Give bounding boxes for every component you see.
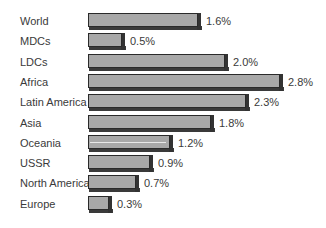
chart-row: Latin America2.3% bbox=[0, 93, 326, 113]
bar bbox=[88, 74, 280, 88]
category-label: World bbox=[20, 15, 49, 27]
chart-row: Oceania1.2% bbox=[0, 134, 326, 154]
chart-row: LDCs2.0% bbox=[0, 53, 326, 73]
bar bbox=[88, 155, 150, 169]
chart-row: World1.6% bbox=[0, 12, 326, 32]
bar bbox=[88, 13, 198, 27]
bar bbox=[88, 175, 136, 189]
category-label: Africa bbox=[20, 76, 48, 88]
chart-row: Europe0.3% bbox=[0, 195, 326, 215]
value-label: 0.3% bbox=[117, 198, 142, 210]
category-label: North America bbox=[20, 177, 90, 189]
value-label: 1.8% bbox=[219, 117, 244, 129]
category-label: LDCs bbox=[20, 56, 48, 68]
chart-row: Africa2.8% bbox=[0, 73, 326, 93]
value-label: 0.5% bbox=[130, 35, 155, 47]
category-label: Oceania bbox=[20, 137, 61, 149]
category-label: Latin America bbox=[20, 96, 87, 108]
chart-row: MDCs0.5% bbox=[0, 32, 326, 52]
bar bbox=[88, 196, 109, 210]
category-label: Asia bbox=[20, 117, 41, 129]
chart-row: USSR0.9% bbox=[0, 154, 326, 174]
value-label: 1.2% bbox=[178, 137, 203, 149]
value-label: 1.6% bbox=[206, 15, 231, 27]
value-label: 0.9% bbox=[158, 157, 183, 169]
value-label: 2.0% bbox=[233, 56, 258, 68]
bar-highlight bbox=[90, 142, 166, 143]
chart-row: Asia1.8% bbox=[0, 114, 326, 134]
bar bbox=[88, 54, 225, 68]
bar bbox=[88, 115, 211, 129]
category-label: MDCs bbox=[20, 35, 51, 47]
value-label: 2.3% bbox=[254, 96, 279, 108]
chart-row: North America0.7% bbox=[0, 174, 326, 194]
bar bbox=[88, 94, 246, 108]
value-label: 0.7% bbox=[144, 177, 169, 189]
category-label: Europe bbox=[20, 198, 55, 210]
value-label: 2.8% bbox=[288, 76, 313, 88]
category-label: USSR bbox=[20, 157, 51, 169]
bar-chart: World1.6%MDCs0.5%LDCs2.0%Africa2.8%Latin… bbox=[0, 0, 326, 228]
bar bbox=[88, 33, 122, 47]
